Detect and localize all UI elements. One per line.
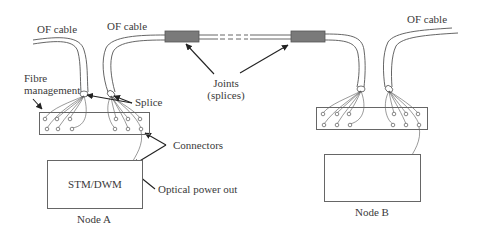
trunk-cable [199,35,291,39]
joint-1 [165,31,199,42]
fibre-management-label-line1: Fibre [24,72,47,84]
fibre-management-panel-node-b [316,107,428,130]
optical-power-out-label: Optical power out [158,183,237,195]
joints-label-line2: (splices) [203,89,249,101]
of-cable-node-b-right [383,28,458,87]
node-b-label: Node B [355,206,389,218]
of-cable-right-label: OF cable [407,13,447,25]
of-cable-left-label: OF cable [37,23,77,35]
fibre-management-label-line2: management [24,84,80,96]
of-cable-middle [103,35,165,92]
splice-label: Splice [135,96,163,108]
node-a-equipment-box: STM/DWM [47,160,143,209]
node-a-label: Node A [77,213,111,225]
of-cable-node-b-left [325,34,365,87]
of-cable-middle-label: OF cable [107,20,147,32]
connectors-label: Connectors [173,139,223,151]
equipment-label-node-a: STM/DWM [48,178,142,190]
fibre-management-panel-node-a [39,112,150,135]
joints-label-line1: Joints [203,77,249,89]
node-b-equipment-box [324,154,421,202]
joint-2 [291,31,325,42]
